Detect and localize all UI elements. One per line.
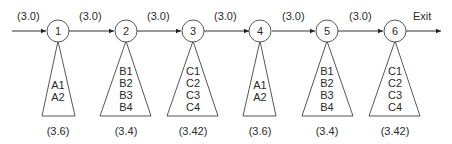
node-id: 5 xyxy=(324,25,330,37)
edge-label: (3.0) xyxy=(147,10,170,22)
node-item: B4 xyxy=(320,101,333,113)
node-id: 1 xyxy=(55,25,61,37)
node-item: B1 xyxy=(119,65,132,77)
node-6: 6 C1 C2 C3 C4 (3.42) xyxy=(369,20,420,137)
edge-label: (3.0) xyxy=(214,10,237,22)
node-id: 3 xyxy=(190,25,196,37)
node-item: B4 xyxy=(119,101,132,113)
node-item: C4 xyxy=(186,101,200,113)
node-id: 4 xyxy=(257,25,263,37)
edge-1-2: (3.0) xyxy=(69,10,114,31)
flow-diagram: (3.0) (3.0) (3.0) (3.0) (3.0) (3.0) Exit… xyxy=(0,0,452,144)
entry-edge-label: (3.0) xyxy=(17,10,40,22)
edge-label: (3.0) xyxy=(79,10,102,22)
node-id: 6 xyxy=(392,25,398,37)
node-2: 2 B1 B2 B3 B4 (3.4) xyxy=(100,20,151,137)
node-value: (3.4) xyxy=(316,125,339,137)
node-3: 3 C1 C2 C3 C4 (3.42) xyxy=(167,20,218,137)
node-item: B2 xyxy=(320,77,333,89)
node-item: B3 xyxy=(119,89,132,101)
node-5: 5 B1 B2 B3 B4 (3.4) xyxy=(302,20,353,137)
edge-4-5: (3.0) xyxy=(272,10,315,31)
node-item: C1 xyxy=(186,65,200,77)
node-id: 2 xyxy=(123,25,129,37)
node-item: A1 xyxy=(51,79,64,91)
entry-edge: (3.0) xyxy=(12,10,46,31)
node-item: A2 xyxy=(51,91,64,103)
edge-label: (3.0) xyxy=(282,10,305,22)
node-item: B2 xyxy=(119,77,132,89)
node-1: 1 A1 A2 (3.6) xyxy=(42,20,75,137)
node-item: C4 xyxy=(388,101,402,113)
node-value: (3.6) xyxy=(47,125,70,137)
node-item: C2 xyxy=(186,77,200,89)
node-value: (3.42) xyxy=(381,125,410,137)
node-item: C1 xyxy=(388,65,402,77)
node-value: (3.4) xyxy=(115,125,138,137)
edge-2-3: (3.0) xyxy=(137,10,181,31)
node-value: (3.42) xyxy=(179,125,208,137)
node-item: C2 xyxy=(388,77,402,89)
edge-5-6: (3.0) xyxy=(338,10,383,31)
node-item: B3 xyxy=(320,89,333,101)
node-4: 4 A1 A2 (3.6) xyxy=(243,20,276,137)
node-item: A1 xyxy=(253,79,266,91)
edge-label: (3.0) xyxy=(349,10,372,22)
node-item: B1 xyxy=(320,65,333,77)
exit-label: Exit xyxy=(413,10,431,22)
edge-3-4: (3.0) xyxy=(204,10,249,31)
node-item: C3 xyxy=(388,89,402,101)
node-item: C3 xyxy=(186,89,200,101)
node-value: (3.6) xyxy=(249,125,272,137)
node-item: A2 xyxy=(253,91,266,103)
exit-edge: Exit xyxy=(406,10,441,31)
